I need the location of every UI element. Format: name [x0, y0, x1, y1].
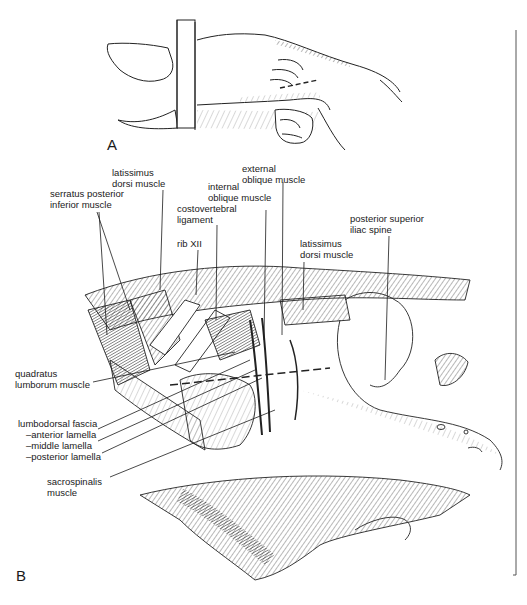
label-rib-xii: rib XII	[177, 238, 202, 249]
label-costovertebral-ligament: costovertebral ligament	[177, 203, 237, 225]
panel-b-drawing	[85, 266, 502, 580]
label-lumbodorsal-fascia: lumbodorsal fascia	[18, 418, 97, 429]
label-posterior-lamella: –posterior lamella	[26, 451, 101, 462]
label-middle-lamella: –middle lamella	[26, 440, 92, 451]
label-posterior-superior-iliac-spine: posterior superior iliac spine	[350, 213, 424, 235]
label-sacrospinalis: sacrospinalis muscle	[47, 476, 102, 498]
anatomical-illustration	[0, 0, 527, 605]
label-latissimus-dorsi-top: latissimus dorsi muscle	[112, 167, 165, 189]
label-external-oblique: external oblique muscle	[242, 163, 305, 185]
panel-a-drawing	[107, 20, 402, 150]
label-latissimus-dorsi-right: latissimus dorsi muscle	[300, 238, 353, 260]
label-anterior-lamella: –anterior lamella	[26, 429, 96, 440]
label-quadratus-lumborum: quadratus lumborum muscle	[15, 368, 90, 390]
panel-label-b: B	[16, 567, 26, 584]
right-border	[513, 30, 516, 575]
panel-label-a: A	[107, 136, 117, 153]
label-serratus-posterior-inferior: serratus posterior inferior muscle	[50, 188, 124, 210]
